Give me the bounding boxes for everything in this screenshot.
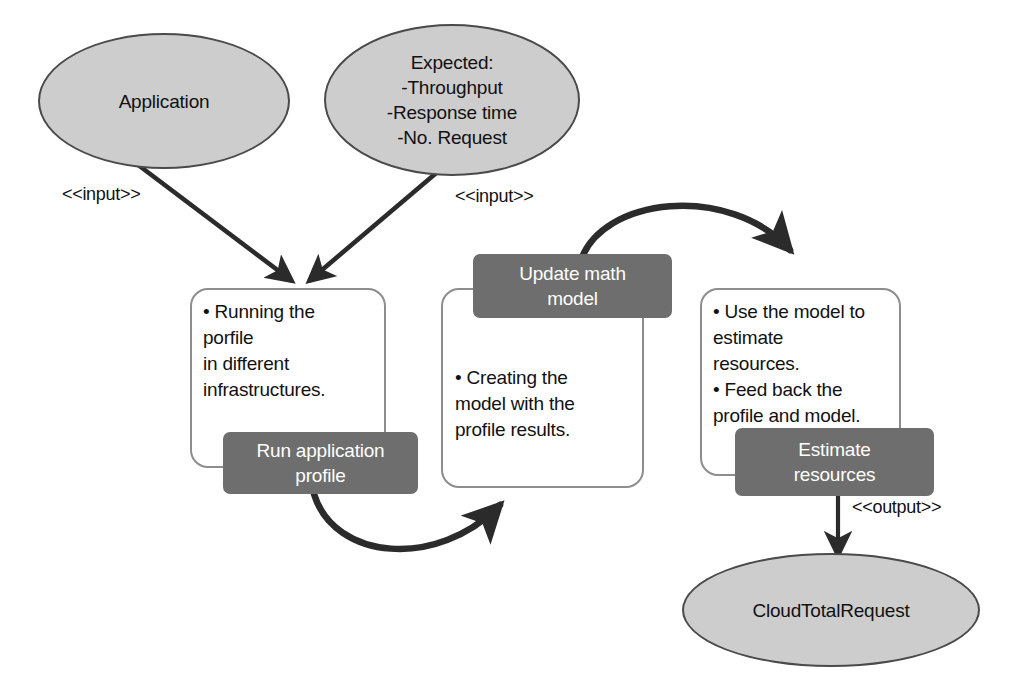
run-application-profile-chip-label: Run application profile — [257, 438, 385, 488]
update-math-model-chip[interactable]: Update math model — [473, 254, 672, 318]
edge-label-input-expected: <<input>> — [455, 186, 533, 206]
application-ellipse[interactable]: Application — [38, 33, 290, 169]
cloud-total-request-ellipse-label: CloudTotalRequest — [752, 598, 909, 623]
edge-run-profile-to-update-model — [314, 494, 500, 549]
expected-ellipse-label: Expected: -Throughput -Response time -No… — [387, 50, 517, 150]
run-application-profile-chip[interactable]: Run application profile — [223, 432, 418, 494]
activity-diagram-canvas: Application Expected: -Throughput -Respo… — [0, 0, 1013, 693]
cloud-total-request-ellipse[interactable]: CloudTotalRequest — [682, 553, 980, 667]
update-model-box-body: • Creating the model with the profile re… — [455, 365, 650, 443]
edge-label-output: <<output>> — [852, 497, 941, 517]
run-profile-box-body: • Running the porfile in different infra… — [203, 299, 393, 403]
edge-application-to-run-profile — [121, 152, 292, 281]
update-math-model-chip-label: Update math model — [519, 261, 626, 311]
application-ellipse-label: Application — [119, 89, 210, 114]
estimate-resources-chip-label: Estimate resources — [794, 437, 876, 487]
edge-expected-to-run-profile — [309, 163, 448, 281]
estimate-resources-box-body: • Use the model to estimate resources. •… — [713, 299, 913, 429]
edge-label-input-application: <<input>> — [62, 184, 140, 204]
estimate-resources-chip[interactable]: Estimate resources — [735, 428, 934, 496]
expected-ellipse[interactable]: Expected: -Throughput -Response time -No… — [324, 24, 580, 176]
